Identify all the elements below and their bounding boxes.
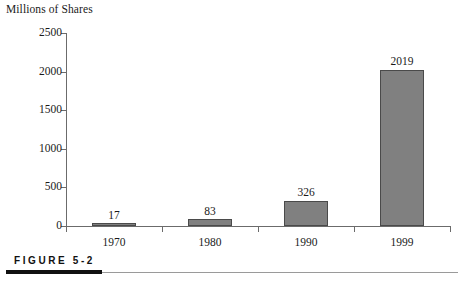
y-tick-label: 2000 [39,64,62,79]
x-tick-mark [66,226,67,232]
y-axis-title: Millions of Shares [6,2,93,16]
y-tick-label: 1500 [39,102,62,117]
y-tick-label: 0 [56,218,62,233]
bar-1980[interactable] [188,219,232,226]
x-category-label-1980: 1980 [188,235,232,250]
y-tick-label: 500 [45,179,62,194]
plot-area: 0 500 1000 1500 2000 2500 [66,33,450,226]
figure-container: Millions of Shares 0 500 1000 1500 2000 … [0,0,462,285]
y-tick-label: 1000 [39,141,62,156]
bar-value-1970: 17 [92,208,136,222]
x-tick-mark [162,226,163,232]
figure-caption-label: FIGURE 5-2 [14,255,95,266]
y-axis-line [66,33,67,226]
bar-value-1990: 326 [284,185,328,199]
caption-rule-thick [6,270,102,274]
bar-1990[interactable] [284,201,328,226]
x-tick-mark [450,226,451,232]
bar-value-1999: 2019 [380,54,424,68]
x-category-label-1990: 1990 [284,235,328,250]
bar-1999[interactable] [380,70,424,226]
x-tick-mark [354,226,355,232]
bar-value-1980: 83 [188,204,232,218]
y-tick-label: 2500 [39,25,62,40]
x-tick-mark [258,226,259,232]
x-category-label-1970: 1970 [92,235,136,250]
bar-1970[interactable] [92,223,136,226]
x-category-label-1999: 1999 [380,235,424,250]
